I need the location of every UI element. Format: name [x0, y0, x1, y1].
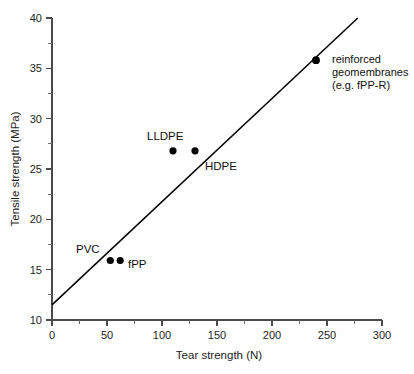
- y-tick-label-40: 40: [30, 12, 42, 24]
- reinforced-geomembranes-annotation: reinforced geomembranes (e.g. fPP-R): [332, 53, 409, 91]
- x-major-ticks: [52, 320, 382, 326]
- annotation-line-1: reinforced: [332, 53, 381, 65]
- point-label-fpp: fPP: [128, 258, 147, 270]
- data-point-fpp[interactable]: [117, 257, 124, 264]
- data-point-reinforced-geomembranes[interactable]: [312, 56, 320, 64]
- x-tick-label-50: 50: [101, 329, 113, 341]
- point-label-lldpe: LLDPE: [147, 130, 184, 142]
- x-tick-label-100: 100: [153, 329, 171, 341]
- data-point-lldpe[interactable]: [169, 147, 176, 154]
- x-axis-title: Tear strength (N): [176, 349, 262, 361]
- y-tick-label-30: 30: [30, 113, 42, 125]
- x-tick-labels: 0 50 100 150 200 250 300: [49, 329, 391, 341]
- scatter-plot: 10 15 20 25 30 35 40 0 50 100 150 200 25…: [0, 0, 414, 374]
- data-point-pvc[interactable]: [107, 257, 114, 264]
- y-tick-label-35: 35: [30, 62, 42, 74]
- y-tick-labels: 10 15 20 25 30 35 40: [30, 12, 42, 326]
- y-tick-label-10: 10: [30, 314, 42, 326]
- chart-figure: 10 15 20 25 30 35 40 0 50 100 150 200 25…: [0, 0, 414, 374]
- x-tick-label-300: 300: [373, 329, 391, 341]
- y-tick-label-25: 25: [30, 163, 42, 175]
- point-label-pvc: PVC: [76, 243, 100, 255]
- y-tick-label-15: 15: [30, 264, 42, 276]
- x-tick-label-0: 0: [49, 329, 55, 341]
- point-label-hdpe: HDPE: [205, 160, 237, 172]
- x-tick-label-200: 200: [263, 329, 281, 341]
- y-major-ticks: [46, 18, 52, 320]
- y-tick-label-20: 20: [30, 213, 42, 225]
- annotation-line-3: (e.g. fPP-R): [332, 79, 390, 91]
- x-tick-label-150: 150: [208, 329, 226, 341]
- annotation-line-2: geomembranes: [332, 66, 409, 78]
- y-axis-title: Tensile strength (MPa): [9, 111, 21, 226]
- data-point-hdpe[interactable]: [191, 147, 198, 154]
- point-labels: PVC fPP LLDPE HDPE: [76, 130, 237, 270]
- x-tick-label-250: 250: [318, 329, 336, 341]
